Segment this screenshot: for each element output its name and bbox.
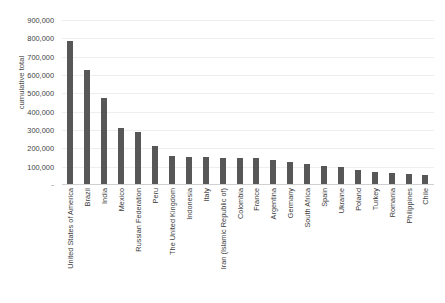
y-axis-tick-label: 800,000 — [27, 34, 54, 43]
x-axis-tick-label: Ukraine — [336, 188, 345, 213]
y-axis-tick-label: 500,000 — [27, 89, 54, 98]
x-label-slot: Mexico — [113, 188, 130, 300]
x-label-slot: Argentina — [265, 188, 282, 300]
bar-slot — [62, 20, 79, 184]
x-axis-tick-label: United States of America — [66, 188, 75, 269]
bar — [203, 157, 209, 184]
bar — [422, 175, 428, 184]
x-label-slot: The United Kingdom — [163, 188, 180, 300]
x-label-slot: France — [248, 188, 265, 300]
bar — [118, 128, 124, 184]
x-axis-tick-label: Mexico — [117, 188, 126, 211]
x-axis-tick-label: Germany — [286, 188, 295, 218]
x-axis-tick-label: Romania — [387, 188, 396, 217]
bar — [304, 164, 310, 184]
x-axis-tick-label: Argentina — [269, 188, 278, 219]
bar-slot — [417, 20, 434, 184]
x-axis-tick-label: Indonesia — [184, 188, 193, 220]
y-axis-tick-label: 400,000 — [27, 107, 54, 116]
bar — [186, 157, 192, 185]
x-label-slot: South Africa — [299, 188, 316, 300]
y-axis-tick-label: - — [51, 180, 54, 190]
x-label-slot: Spain — [316, 188, 333, 300]
x-label-slot: Germany — [282, 188, 299, 300]
x-axis-line — [62, 184, 434, 185]
bar-slot — [282, 20, 299, 184]
bar — [355, 170, 361, 184]
y-axis-tick-labels: 900,000800,000700,000600,000500,000400,0… — [0, 20, 58, 185]
y-axis-tick-label: 600,000 — [27, 71, 54, 80]
bar-slot — [113, 20, 130, 184]
bar — [321, 166, 327, 184]
x-axis-tick-label: Philippines — [404, 188, 413, 224]
bar-slot — [163, 20, 180, 184]
bar-slot — [214, 20, 231, 184]
bar — [101, 98, 107, 184]
bar-slot — [333, 20, 350, 184]
bar-slot — [265, 20, 282, 184]
x-axis-tick-label: Brazil — [83, 188, 92, 206]
x-axis-tick-label: France — [252, 188, 261, 211]
bar — [135, 132, 141, 184]
x-axis-tick-label: The United Kingdom — [167, 188, 176, 255]
bar — [220, 158, 226, 184]
bar — [270, 160, 276, 184]
bar-slot — [248, 20, 265, 184]
x-axis-tick-label: Colombia — [235, 188, 244, 219]
bar-series — [62, 20, 434, 184]
bar — [169, 156, 175, 184]
y-axis-tick-label: 100,000 — [27, 162, 54, 171]
x-label-slot: Ukraine — [333, 188, 350, 300]
bar-slot — [180, 20, 197, 184]
x-label-slot: Romania — [383, 188, 400, 300]
bar-chart: cumulative total 900,000800,000700,00060… — [0, 0, 445, 303]
x-label-slot: Brazil — [79, 188, 96, 300]
x-axis-tick-label: Italy — [201, 188, 210, 201]
bar — [372, 172, 378, 184]
x-axis-tick-label: Russian Federation — [134, 188, 143, 252]
bar-slot — [349, 20, 366, 184]
bar-slot — [96, 20, 113, 184]
bar — [287, 162, 293, 184]
bar-slot — [383, 20, 400, 184]
x-axis-category-labels: United States of AmericaBrazilIndiaMexic… — [62, 188, 434, 300]
x-label-slot: Colombia — [231, 188, 248, 300]
y-axis-tick-label: 900,000 — [27, 16, 54, 25]
bar — [338, 167, 344, 184]
x-label-slot: Indonesia — [180, 188, 197, 300]
bar — [84, 70, 90, 184]
bar-slot — [316, 20, 333, 184]
x-label-slot: Russian Federation — [130, 188, 147, 300]
bar-slot — [299, 20, 316, 184]
bar-slot — [130, 20, 147, 184]
x-axis-tick-label: South Africa — [303, 188, 312, 228]
bar — [389, 173, 395, 184]
x-label-slot: Iran (Islamic Republic of) — [214, 188, 231, 300]
y-axis-tick-label: 200,000 — [27, 144, 54, 153]
x-label-slot: Turkey — [366, 188, 383, 300]
x-label-slot: India — [96, 188, 113, 300]
x-label-slot: Peru — [147, 188, 164, 300]
bar-slot — [79, 20, 96, 184]
bar — [152, 146, 158, 184]
bar-slot — [366, 20, 383, 184]
x-label-slot: United States of America — [62, 188, 79, 300]
x-label-slot: Philippines — [400, 188, 417, 300]
bar-slot — [400, 20, 417, 184]
bar — [67, 41, 73, 184]
x-axis-tick-label: Spain — [320, 188, 329, 207]
bar — [253, 158, 259, 184]
x-label-slot: Italy — [197, 188, 214, 300]
bar-slot — [197, 20, 214, 184]
x-axis-tick-label: Chile — [421, 188, 430, 205]
y-axis-tick-label: 300,000 — [27, 126, 54, 135]
bar — [237, 158, 243, 184]
x-label-slot: Chile — [417, 188, 434, 300]
x-axis-tick-label: Turkey — [370, 188, 379, 210]
x-axis-tick-label: Peru — [150, 188, 159, 204]
x-axis-tick-label: Poland — [353, 188, 362, 211]
bar — [406, 174, 412, 184]
y-axis-tick-label: 700,000 — [27, 52, 54, 61]
plot-area — [62, 20, 434, 185]
bar-slot — [147, 20, 164, 184]
